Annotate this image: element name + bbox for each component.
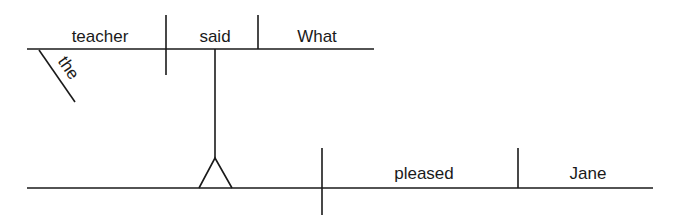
subordinate-verb-word: pleased — [394, 164, 454, 183]
sentence-diagram: teacher said What the pleased Jane — [0, 0, 674, 223]
subject-word: teacher — [72, 27, 129, 46]
pedestal-triangle — [199, 158, 232, 188]
verb-word: said — [199, 27, 230, 46]
subordinate-object-word: Jane — [570, 164, 607, 183]
object-word: What — [297, 27, 337, 46]
